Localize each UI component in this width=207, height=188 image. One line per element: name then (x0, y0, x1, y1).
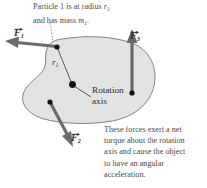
radius-label: r1 (52, 57, 58, 68)
force-vector-f1 (5, 37, 57, 49)
force3-subscript: 3 (137, 35, 140, 42)
bottom-caption-line2: torque about the rotation (104, 136, 185, 145)
bottom-caption-line3: axis and cause the object (104, 147, 185, 156)
radius-subscript-caption: 1 (107, 6, 110, 12)
rotation-axis-dot (69, 81, 76, 88)
top-caption-period: . (87, 16, 89, 25)
bottom-caption-line1: These forces exert a net (104, 125, 182, 134)
rotation-axis-label-line1: Rotation (92, 85, 124, 95)
vector-arrow-icon (14, 26, 23, 31)
bottom-caption-line5: acceleration. (104, 170, 146, 179)
force2-subscript: 2 (78, 137, 81, 144)
rigid-body-shape (23, 37, 155, 124)
vector-arrow-icon (130, 29, 139, 34)
top-caption: Particle 1 is at radius r1 and has mass … (33, 1, 165, 29)
particle-1-dot (54, 44, 59, 49)
vector-arrow-icon (71, 131, 80, 136)
force-label-f1: F1 (14, 27, 24, 39)
top-caption-line1-text: Particle 1 is at radius (33, 2, 104, 11)
force2-point-dot (47, 99, 52, 104)
force-label-f2: F2 (71, 132, 81, 144)
rotation-axis-label: Rotation axis (92, 85, 152, 108)
bottom-caption: These forces exert a net torque about th… (104, 124, 207, 180)
top-caption-line2-text: and has mass (33, 16, 78, 25)
rotation-axis-label-line2: axis (92, 96, 107, 106)
force-label-f3: F3 (130, 30, 140, 42)
force1-subscript: 1 (21, 32, 24, 39)
radius-subscript: 1 (56, 62, 59, 68)
bottom-caption-line4: to have an angular (104, 159, 164, 168)
